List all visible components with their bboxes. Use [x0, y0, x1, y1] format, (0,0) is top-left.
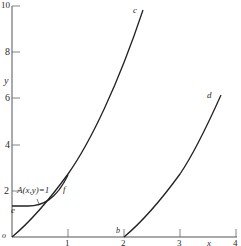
curve-label-d: d — [207, 91, 212, 100]
chart-canvas — [0, 0, 241, 246]
x-tick-label-3: 3 — [177, 239, 182, 246]
point-label-b: b — [116, 227, 120, 235]
curve-label-c: c — [133, 6, 137, 15]
y-tick-label-10: 10 — [1, 1, 10, 10]
y-axis-label: y — [4, 76, 8, 86]
y-tick-label-6: 6 — [5, 93, 10, 103]
constraint-leader — [37, 199, 39, 204]
constraint-label: A(x,y)=1 — [17, 186, 49, 195]
y-tick-label-4: 4 — [5, 140, 10, 150]
curve-c — [12, 10, 143, 237]
x-tick-label-4: 4 — [233, 239, 238, 246]
point-label-e: e — [11, 206, 15, 215]
y-tick-label-2: 2 — [4, 186, 9, 196]
origin-label: o — [2, 232, 6, 240]
x-tick-label-2: 2 — [121, 239, 126, 246]
x-axis-label: x — [207, 239, 211, 246]
y-tick-label-8: 8 — [5, 47, 10, 57]
x-tick-label-1: 1 — [65, 239, 70, 246]
point-label-f: f — [63, 185, 66, 194]
curve-d — [124, 95, 221, 237]
